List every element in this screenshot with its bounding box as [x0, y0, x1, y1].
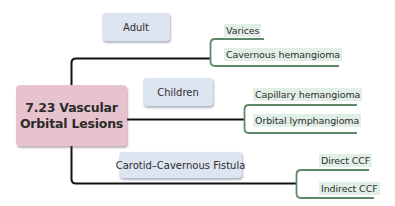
root-node: 7.23 Vascular Orbital Lesions [16, 85, 127, 146]
category-label: Carotid–Cavernous Fistula [116, 160, 246, 171]
leaf-capillary-hemangioma: Capillary hemangioma [253, 88, 362, 101]
leaf-orbital-lymphangioma: Orbital lymphangioma [253, 114, 361, 127]
leaf-varices: Varices [224, 24, 261, 37]
category-label: Children [157, 87, 199, 98]
category-children: Children [143, 78, 213, 106]
leaf-indirect-ccf: Indirect CCF [319, 182, 380, 195]
category-label: Adult [123, 22, 149, 33]
root-title-line2: Orbital Lesions [20, 116, 123, 132]
category-adult: Adult [102, 13, 170, 41]
root-title-line1: 7.23 Vascular [20, 100, 123, 116]
leaf-direct-ccf: Direct CCF [319, 154, 372, 167]
category-carotid-cavernous-fistula: Carotid–Cavernous Fistula [119, 152, 242, 178]
mind-map: 7.23 Vascular Orbital Lesions Adult Chil… [0, 0, 395, 206]
leaf-cavernous-hemangioma: Cavernous hemangioma [224, 48, 342, 61]
